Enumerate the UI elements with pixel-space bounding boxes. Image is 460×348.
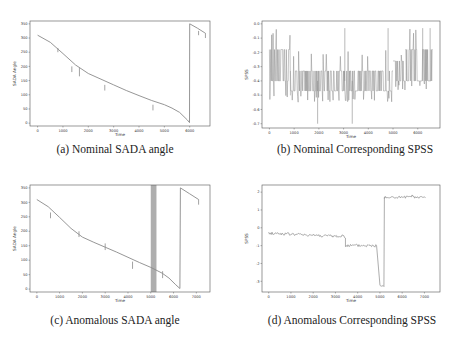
- x-tick-label: 7000: [192, 295, 202, 299]
- y-axis-label: SADA Angle: [12, 61, 17, 86]
- y-tick-label: 350: [21, 186, 29, 190]
- plot-frame: [262, 185, 440, 292]
- x-axis: 01000200030004000500060007000Time: [36, 292, 202, 303]
- x-tick-label: 1000: [286, 295, 296, 299]
- x-tick-label: 7000: [420, 295, 430, 299]
- caption-a: (a) Nominal SADA angle: [35, 143, 195, 155]
- x-tick-label: 0: [268, 131, 271, 135]
- y-tick-label: -0.3: [252, 65, 259, 69]
- y-tick-label: 100: [21, 93, 29, 97]
- panel-c-anomalous-sada-angle: 01000200030004000500060007000Time0501001…: [0, 170, 230, 310]
- y-tick-label: 0: [257, 226, 260, 230]
- x-tick-label: 5000: [160, 129, 170, 133]
- chart-a-nominal-sada-angle: 0100020003000400050006000Time05010015020…: [0, 0, 230, 140]
- y-axis: 0.0-0.1-0.2-0.3-0.4-0.5-0.6-0.7SPSS: [244, 22, 262, 126]
- x-axis-label: Time: [345, 298, 357, 303]
- x-tick-label: 6000: [413, 131, 423, 135]
- y-tick-label: 150: [21, 79, 29, 83]
- x-tick-label: 6000: [398, 295, 408, 299]
- x-tick-label: 3000: [101, 295, 111, 299]
- x-tick-label: 1000: [58, 129, 68, 133]
- y-tick-label: 250: [21, 215, 29, 219]
- series-c: [37, 188, 199, 289]
- y-tick-label: -2: [256, 262, 260, 266]
- panel-a-nominal-sada-angle: 0100020003000400050006000Time05010015020…: [0, 0, 230, 140]
- x-tick-label: 5000: [146, 295, 156, 299]
- y-tick-label: -0.6: [252, 108, 260, 112]
- plot-frame: [30, 21, 210, 126]
- y-axis: 210-1-2-3SPSS: [244, 190, 262, 283]
- y-tick-label: 2: [257, 190, 259, 194]
- x-tick-label: 2000: [84, 129, 94, 133]
- y-axis: 050100150200250300350SADA Angle: [12, 186, 30, 291]
- y-tick-label: 50: [23, 107, 28, 111]
- y-axis-label: SADA Angle: [12, 226, 17, 251]
- x-axis-label: Time: [114, 298, 126, 303]
- y-tick-label: 100: [21, 258, 29, 262]
- x-tick-label: 4000: [134, 129, 144, 133]
- x-tick-label: 2000: [78, 295, 88, 299]
- chart-d-anomalous-spss: 01000200030004000500060007000Time210-1-2…: [230, 170, 460, 310]
- x-tick-label: 1000: [55, 295, 65, 299]
- y-tick-label: -3: [256, 280, 260, 284]
- y-tick-label: 200: [21, 65, 29, 69]
- x-tick-label: 6000: [169, 295, 179, 299]
- series-b: [269, 28, 432, 124]
- x-tick-label: 0: [36, 129, 39, 133]
- caption-c: (c) Anomalous SADA angle: [30, 314, 200, 326]
- panel-b-nominal-spss: 0100020003000400050006000Time0.0-0.1-0.2…: [230, 0, 460, 140]
- series-d: [269, 195, 426, 287]
- x-axis: 0100020003000400050006000Time: [268, 128, 423, 139]
- caption-d: (d) Anomalous Corresponding SPSS: [242, 314, 460, 326]
- plot-frame: [30, 185, 210, 292]
- y-tick-label: 350: [21, 22, 29, 26]
- x-tick-label: 6000: [185, 129, 195, 133]
- y-tick-label: -0.7: [252, 122, 259, 126]
- y-axis-label: SPSS: [244, 69, 249, 80]
- x-axis: 01000200030004000500060007000Time: [268, 292, 430, 303]
- x-tick-label: 3000: [331, 295, 341, 299]
- y-tick-label: 300: [21, 201, 29, 205]
- y-axis-label: SPSS: [244, 233, 249, 244]
- x-axis: 0100020003000400050006000Time: [36, 126, 195, 137]
- x-tick-label: 1000: [290, 131, 300, 135]
- y-tick-label: 0.0: [254, 22, 260, 26]
- x-axis-label: Time: [114, 132, 126, 137]
- x-tick-label: 4000: [364, 131, 374, 135]
- y-tick-label: 0: [25, 121, 28, 125]
- x-tick-label: 5000: [388, 131, 398, 135]
- y-tick-label: 0: [25, 287, 28, 291]
- series-a: [38, 24, 206, 123]
- chart-c-anomalous-sada-angle: 01000200030004000500060007000Time0501001…: [0, 170, 230, 310]
- x-tick-label: 0: [36, 295, 39, 299]
- y-tick-label: 250: [21, 50, 29, 54]
- y-tick-label: -0.5: [252, 93, 259, 97]
- y-tick-label: -0.2: [252, 51, 259, 55]
- y-axis: 050100150200250300350SADA Angle: [12, 22, 30, 125]
- chart-b-nominal-spss: 0100020003000400050006000Time0.0-0.1-0.2…: [230, 0, 460, 140]
- y-tick-label: -0.1: [252, 36, 259, 40]
- anomaly-region: [151, 185, 157, 292]
- y-tick-label: 50: [23, 273, 28, 277]
- y-tick-label: 150: [21, 244, 29, 248]
- y-tick-label: 300: [21, 36, 29, 40]
- x-tick-label: 2000: [309, 295, 319, 299]
- y-tick-label: -1: [256, 244, 260, 248]
- y-tick-label: 1: [257, 208, 259, 212]
- x-axis-label: Time: [345, 134, 357, 139]
- panel-d-anomalous-spss: 01000200030004000500060007000Time210-1-2…: [230, 170, 460, 310]
- x-tick-label: 2000: [314, 131, 324, 135]
- y-tick-label: 200: [21, 229, 29, 233]
- y-tick-label: -0.4: [252, 79, 260, 83]
- x-tick-label: 5000: [375, 295, 385, 299]
- x-tick-label: 0: [268, 295, 271, 299]
- caption-b: (b) Nominal Corresponding SPSS: [250, 143, 460, 155]
